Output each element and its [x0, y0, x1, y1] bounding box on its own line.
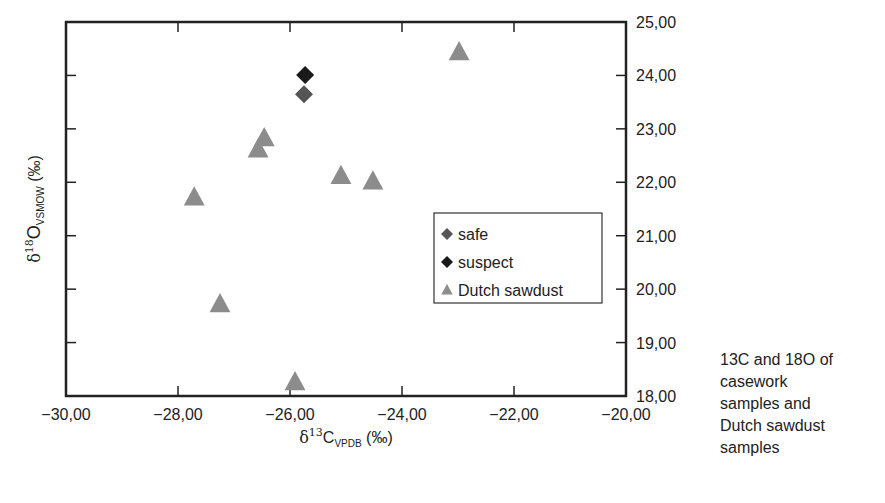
data-points	[184, 41, 470, 390]
series-suspect	[296, 66, 314, 84]
y-axis-title: δ18OVSMOW (‰)	[23, 155, 46, 263]
triangle-marker	[449, 41, 470, 60]
y-tick-label: 19,00	[636, 335, 676, 352]
legend: safesuspectDutch sawdust	[434, 213, 602, 303]
series-dutch-sawdust	[184, 41, 470, 390]
x-tick-label: −22,00	[489, 406, 538, 423]
y-tick-label: 25,00	[636, 14, 676, 31]
legend-label: suspect	[458, 254, 514, 271]
triangle-marker	[362, 170, 383, 189]
y-tick-label: 22,00	[636, 174, 676, 191]
legend-label: Dutch sawdust	[458, 282, 563, 299]
series-safe	[295, 85, 313, 103]
y-tick-label: 24,00	[636, 67, 676, 84]
x-tick-label: −24,00	[377, 406, 426, 423]
diamond-marker	[295, 85, 313, 103]
y-tick-label: 23,00	[636, 121, 676, 138]
y-tick-label: 18,00	[636, 388, 676, 405]
x-tick-label: −20,00	[601, 406, 650, 423]
triangle-marker	[285, 371, 306, 390]
y-tick-label: 21,00	[636, 228, 676, 245]
diamond-marker	[296, 66, 314, 84]
x-axis-title: δ13CVPDB (‰)	[299, 426, 393, 449]
y-tick-label: 20,00	[636, 281, 676, 298]
triangle-marker	[331, 165, 352, 184]
legend-item-dutch-sawdust: Dutch sawdust	[441, 282, 563, 299]
triangle-marker	[254, 127, 275, 146]
x-tick-label: −28,00	[153, 406, 202, 423]
y-axis: 18,0019,0020,0021,0022,0023,0024,0025,00	[66, 14, 676, 405]
legend-label: safe	[458, 226, 488, 243]
x-tick-label: −30,00	[41, 406, 90, 423]
plot-frame	[66, 22, 626, 396]
triangle-marker	[210, 293, 231, 312]
triangle-marker	[184, 186, 205, 205]
x-tick-label: −26,00	[265, 406, 314, 423]
figure-caption: 13C and 18O of casework samples and Dutc…	[720, 349, 880, 459]
